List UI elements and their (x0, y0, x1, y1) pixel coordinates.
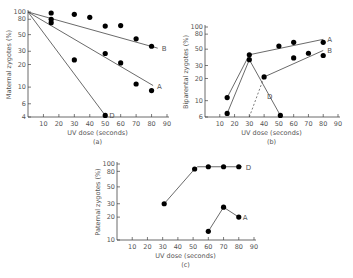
x-tick-label: 40 (86, 120, 94, 128)
x-tick-label: 50 (275, 120, 283, 128)
y-tick-label: 80 (195, 30, 203, 38)
data-point (162, 201, 167, 206)
data-point (291, 55, 296, 60)
y-tick-label: 10 (195, 97, 203, 105)
data-point (206, 164, 211, 169)
data-point (118, 23, 123, 28)
data-point (236, 215, 241, 220)
series-line (264, 50, 323, 76)
series-line (227, 60, 249, 114)
x-tick-label: 20 (230, 120, 238, 128)
y-tick-label: 10 (107, 236, 115, 244)
x-tick-label: 40 (174, 243, 182, 251)
y-tick-label: 6 (22, 100, 26, 108)
series-D: D (162, 164, 252, 207)
x-tick-label: 10 (128, 243, 136, 251)
series-label: B (327, 47, 332, 55)
x-tick-label: 70 (132, 120, 140, 128)
y-tick-label: 50 (18, 31, 26, 39)
panel-c-paternal-zygotes: 1020304050607080901008050302010UV dose (… (94, 160, 258, 269)
y-axis-label: Maternal zygotes (%) (5, 30, 13, 99)
x-tick-label: 30 (159, 243, 167, 251)
data-point (291, 40, 296, 45)
series-label: D (246, 164, 251, 172)
panel-b-biparental-zygotes: 10203040506070809010080503020106UV dose … (182, 23, 342, 146)
series-line (227, 55, 249, 98)
x-tick-label: 90 (250, 243, 258, 251)
x-axis-label: UV dose (seconds) (67, 129, 127, 137)
data-point (72, 57, 77, 62)
x-tick-label: 50 (189, 243, 197, 251)
panel-caption: (a) (93, 138, 102, 146)
x-tick-label: 20 (143, 243, 151, 251)
x-tick-label: 30 (245, 120, 253, 128)
x-tick-label: 80 (319, 120, 327, 128)
series-D: D (28, 12, 115, 120)
x-tick-label: 60 (204, 243, 212, 251)
data-point (276, 44, 281, 49)
y-tick-label: 6 (199, 113, 203, 121)
x-tick-label: 10 (39, 120, 47, 128)
x-tick-label: 70 (304, 120, 312, 128)
data-point (247, 52, 252, 57)
data-point (49, 10, 54, 15)
data-point (103, 113, 108, 118)
x-tick-label: 80 (235, 243, 243, 251)
data-point (103, 51, 108, 56)
series-label: A (327, 36, 332, 44)
data-point (72, 12, 77, 17)
series-line (249, 39, 323, 54)
data-point (236, 164, 241, 169)
y-tick-label: 80 (18, 15, 26, 23)
data-point (149, 88, 154, 93)
x-tick-label: 30 (70, 120, 78, 128)
y-tick-label: 80 (107, 168, 115, 176)
figure: 102030405060708090100805030201064UV dose… (0, 0, 353, 278)
y-tick-label: 30 (195, 62, 203, 70)
x-tick-label: 40 (260, 120, 268, 128)
series-line (164, 169, 194, 204)
series-line (208, 207, 223, 231)
data-point (103, 23, 108, 28)
x-tick-label: 50 (101, 120, 109, 128)
y-axis-label: Biparental zygotes (%) (182, 35, 190, 109)
data-point (247, 57, 252, 62)
data-point (321, 53, 326, 58)
data-point (221, 205, 226, 210)
series-A: A (206, 205, 248, 234)
series-line (249, 60, 280, 116)
series-A: A (225, 36, 333, 100)
x-tick-label: 10 (216, 120, 224, 128)
x-axis-label: UV dose (seconds) (241, 129, 301, 137)
data-point (134, 81, 139, 86)
series-label: D (267, 93, 272, 101)
fit-line (28, 12, 105, 115)
y-tick-label: 20 (195, 75, 203, 83)
x-axis-label: UV dose (seconds) (155, 252, 215, 260)
data-point (225, 95, 230, 100)
series-label: D (109, 112, 114, 120)
data-point (221, 164, 226, 169)
panel-caption: (c) (181, 261, 190, 269)
x-tick-label: 80 (147, 120, 155, 128)
series-A: A (28, 12, 162, 93)
y-tick-label: 50 (195, 45, 203, 53)
data-point (225, 111, 230, 116)
fit-line (28, 12, 158, 48)
y-tick-label: 20 (107, 213, 115, 221)
panel-caption: (b) (267, 138, 276, 146)
panel-a-maternal-zygotes: 102030405060708090100805030201064UV dose… (5, 8, 171, 146)
x-tick-label: 70 (219, 243, 227, 251)
series-line (224, 207, 239, 217)
data-point (118, 60, 123, 65)
data-point (87, 15, 92, 20)
data-point (262, 74, 267, 79)
series-label: B (162, 45, 167, 53)
data-point (206, 229, 211, 234)
series-B: B (28, 10, 167, 53)
data-point (149, 44, 154, 49)
y-tick-label: 10 (18, 83, 26, 91)
series-label: A (157, 83, 162, 91)
fit-line (28, 12, 153, 86)
data-point (49, 20, 54, 25)
